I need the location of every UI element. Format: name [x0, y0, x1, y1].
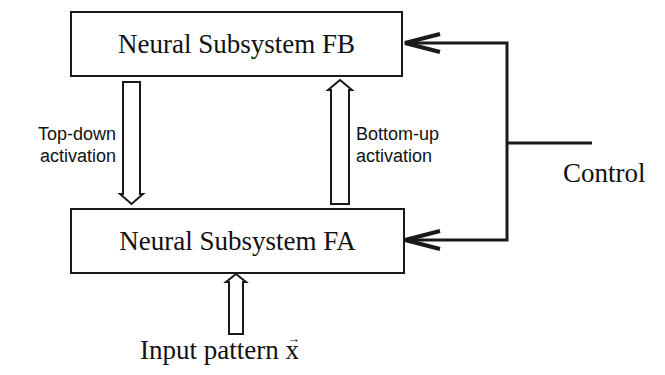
bottom-up-arrow [328, 80, 352, 204]
fa-label: Neural Subsystem FA [119, 226, 356, 257]
neural-subsystem-fb-box: Neural Subsystem FB [70, 11, 403, 77]
input-pattern-label: Input pattern x→ [140, 335, 312, 366]
control-label: Control [563, 158, 646, 189]
bottom-up-label: Bottom-up activation [356, 123, 439, 167]
input-arrow [226, 274, 246, 334]
top-down-label: Top-down activation [9, 123, 116, 167]
fb-label: Neural Subsystem FB [118, 29, 355, 60]
neural-subsystem-fa-box: Neural Subsystem FA [70, 208, 405, 274]
vector-arrow-icon: → [287, 331, 300, 346]
top-down-arrow [120, 82, 143, 204]
